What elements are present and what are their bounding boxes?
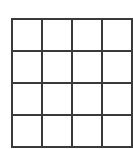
grid-row [12,51,132,83]
grid-cell[interactable] [102,83,132,115]
grid-row [12,83,132,115]
grid-cell[interactable] [72,19,102,51]
grid-cell[interactable] [72,115,102,147]
grid-body [12,19,132,147]
grid-row [12,115,132,147]
grid-cell[interactable] [12,19,42,51]
grid-cell[interactable] [12,51,42,83]
grid-cell[interactable] [102,51,132,83]
figure-canvas [0,0,133,149]
grid-cell[interactable] [72,51,102,83]
grid-cell[interactable] [42,19,72,51]
grid-cell[interactable] [12,115,42,147]
grid-row [12,19,132,51]
grid-cell[interactable] [102,115,132,147]
grid-table [11,18,133,148]
grid-cell[interactable] [102,19,132,51]
grid-cell[interactable] [12,83,42,115]
grid-cell[interactable] [42,115,72,147]
grid-cell[interactable] [42,51,72,83]
grid-cell[interactable] [72,83,102,115]
grid-figure [11,18,124,139]
grid-cell[interactable] [42,83,72,115]
